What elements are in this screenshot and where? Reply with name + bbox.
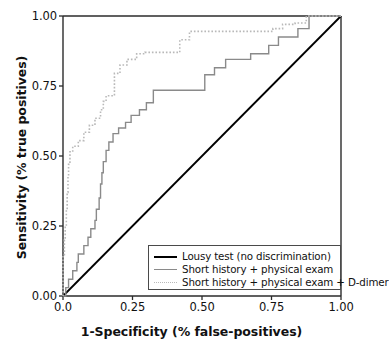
x-tick-label-2: 0.50 (189, 300, 214, 314)
x-axis-title: 1-Specificity (% false-positives) (0, 324, 383, 339)
legend-swatch-solid-gray-icon (154, 264, 177, 274)
legend-swatch-dotted-gray-icon (154, 277, 177, 287)
y-tick-label-4: 1.00 (20, 9, 57, 23)
legend-label-1: Short history + physical exam (182, 263, 333, 275)
legend-item-2: Short history + physical exam + D-dimer (154, 275, 336, 288)
chart-legend: Lousy test (no discrimination)Short hist… (148, 245, 341, 290)
y-tick-label-0: 0.00 (20, 289, 57, 303)
legend-item-1: Short history + physical exam (154, 262, 336, 275)
legend-label-2: Short history + physical exam + D-dimer (182, 276, 389, 288)
x-tick-label-4: 1.00 (328, 300, 353, 314)
y-axis-title: Sensitivity (% true positives) (14, 43, 29, 273)
x-tick-label-1: 0.25 (120, 300, 145, 314)
x-tick-label-3: 0.75 (259, 300, 284, 314)
legend-item-0: Lousy test (no discrimination) (154, 249, 336, 262)
legend-label-0: Lousy test (no discrimination) (182, 250, 331, 262)
legend-swatch-solid-black-icon (154, 251, 177, 261)
